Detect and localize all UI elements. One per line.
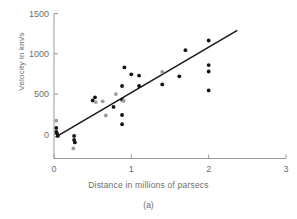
data-point — [207, 39, 211, 43]
regression-line — [56, 30, 238, 137]
data-point — [120, 122, 124, 126]
data-point — [160, 82, 164, 86]
y-tick-label: 1000 — [29, 49, 49, 59]
data-point — [71, 147, 75, 151]
x-tick-label: 0 — [51, 164, 56, 174]
data-point — [104, 114, 108, 118]
figure-caption: (a) — [0, 200, 297, 210]
x-tick-label: 2 — [206, 164, 211, 174]
data-point — [54, 119, 58, 123]
data-point — [101, 99, 105, 103]
data-point — [122, 99, 126, 103]
y-axis-label: Velocity in km/s — [17, 7, 26, 117]
x-axis-label: Distance in millions of parsecs — [0, 180, 297, 190]
data-point — [73, 140, 77, 144]
data-point — [122, 66, 126, 70]
tick-labels: 0500100015000123 — [29, 9, 289, 174]
regression-line-segment — [56, 30, 238, 137]
data-point — [114, 92, 118, 96]
data-point — [112, 105, 116, 109]
data-point — [207, 63, 211, 67]
plot-axes — [54, 14, 286, 159]
data-point — [54, 126, 58, 130]
data-point — [93, 95, 97, 99]
hubble-diagram-figure: 0500100015000123 Velocity in km/s Distan… — [0, 0, 297, 219]
x-tick-label: 3 — [283, 164, 288, 174]
data-point — [120, 84, 124, 88]
data-point — [72, 134, 76, 138]
data-point — [207, 89, 211, 93]
data-point — [120, 113, 124, 117]
y-tick-label: 0 — [44, 130, 49, 140]
y-tick-label: 500 — [34, 89, 49, 99]
data-point — [177, 74, 181, 78]
data-point — [94, 100, 98, 104]
x-tick-label: 1 — [129, 164, 134, 174]
data-point — [137, 74, 141, 78]
data-points — [54, 39, 210, 151]
data-point — [56, 134, 60, 138]
data-point — [207, 70, 211, 74]
y-tick-label: 1500 — [29, 9, 49, 19]
data-point — [184, 48, 188, 52]
data-point — [129, 72, 133, 76]
data-point — [137, 84, 141, 88]
data-point — [160, 70, 164, 74]
